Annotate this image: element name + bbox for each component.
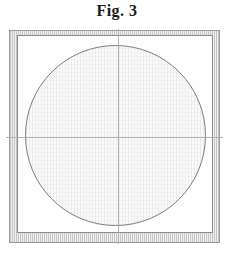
vertical-centerline xyxy=(118,29,119,244)
figure-canvas xyxy=(0,0,234,256)
horizontal-centerline xyxy=(6,137,223,138)
inscribed-circle xyxy=(25,45,206,226)
